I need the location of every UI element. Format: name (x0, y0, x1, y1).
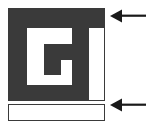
glyph-inner-hook-stub (44, 44, 61, 75)
arrow-left-icon-top (110, 9, 146, 23)
arrow-left-icon-bottom (110, 98, 146, 112)
glyph-top-bar (8, 8, 105, 28)
glyph-right-stroke (72, 28, 89, 101)
spiral-maze-glyph (8, 8, 105, 121)
figure-root (0, 0, 148, 129)
bottom-bar (8, 104, 105, 121)
